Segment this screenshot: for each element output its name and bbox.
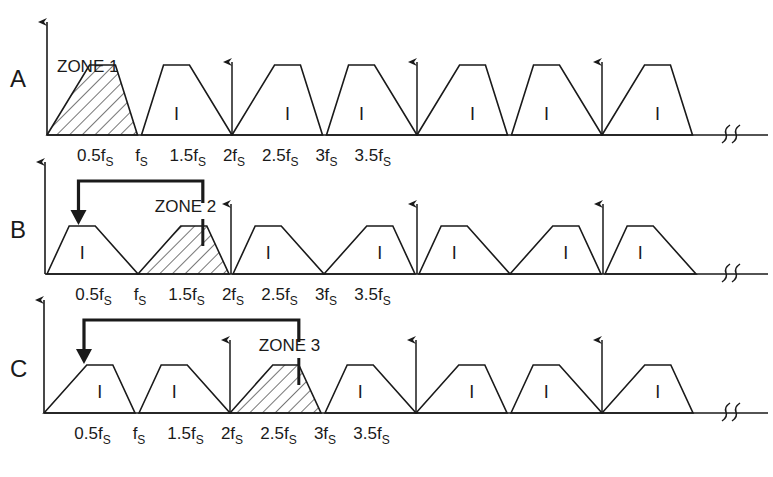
zone-label: ZONE 2 [155, 197, 216, 216]
tick-label: 0.5fS [74, 424, 110, 447]
image-band [605, 226, 696, 274]
image-band [419, 226, 510, 274]
image-band [416, 365, 507, 413]
image-band [511, 365, 602, 413]
tick-label: 3fS [315, 285, 337, 308]
image-band [417, 65, 508, 135]
band-label: I [638, 243, 643, 263]
image-band [44, 365, 135, 413]
panel-c: IIIIII0.5fSfS1.5fS2fS2.5fS3fS3.5fSCZONE … [10, 300, 768, 447]
band-label: I [285, 104, 290, 124]
band-label: I [469, 382, 474, 402]
image-band [324, 226, 415, 274]
image-band [142, 65, 233, 135]
tick-label: 2.5fS [260, 424, 296, 447]
axis-break-icon [722, 125, 740, 143]
image-band [325, 365, 416, 413]
zone-band-hatched [138, 226, 229, 274]
panel-label: C [10, 355, 27, 382]
band-label: I [266, 243, 271, 263]
band-label: I [544, 104, 549, 124]
panel-label: A [10, 65, 26, 92]
undersampling-zones-diagram: IIIIII0.5fSfS1.5fS2fS2.5fS3fS3.5fSAZONE … [0, 0, 773, 477]
image-band [510, 226, 601, 274]
tick-label: 3fS [315, 146, 337, 169]
image-band [327, 65, 418, 135]
band-label: I [655, 104, 660, 124]
axis-break-icon [722, 264, 740, 282]
tick-label: 2.5fS [262, 146, 298, 169]
band-label: I [172, 382, 177, 402]
tick-label: 3fS [314, 424, 336, 447]
image-band [233, 226, 324, 274]
band-label: I [452, 243, 457, 263]
tick-label: 2fS [221, 424, 243, 447]
image-band [602, 365, 693, 413]
tick-label: 3.5fS [355, 146, 391, 169]
band-label: I [544, 382, 549, 402]
band-label: I [655, 382, 660, 402]
zone-band-hatched [230, 365, 321, 413]
panel-a: IIIIII0.5fSfS1.5fS2fS2.5fS3fS3.5fSAZONE … [10, 22, 768, 169]
tick-label: 1.5fS [167, 424, 203, 447]
band-label: I [97, 382, 102, 402]
tick-label: 1.5fS [170, 146, 206, 169]
panel-b: IIIIII0.5fSfS1.5fS2fS2.5fS3fS3.5fSBZONE … [10, 162, 768, 308]
fold-back-arrowhead-icon [76, 349, 92, 364]
band-label: I [563, 243, 568, 263]
zone-label: ZONE 3 [259, 336, 320, 355]
image-band [602, 65, 693, 135]
fold-back-arrowhead-icon [70, 210, 86, 225]
tick-label: 2fS [223, 146, 245, 169]
tick-label: fS [135, 146, 148, 169]
band-label: I [470, 104, 475, 124]
image-band [512, 65, 603, 135]
panel-label: B [10, 216, 26, 243]
image-band [139, 365, 230, 413]
band-label: I [359, 104, 364, 124]
tick-label: 0.5fS [75, 285, 111, 308]
image-band [232, 65, 323, 135]
band-label: I [358, 382, 363, 402]
tick-label: 3.5fS [354, 285, 390, 308]
tick-label: 3.5fS [353, 424, 389, 447]
band-label: I [174, 104, 179, 124]
zone-label: ZONE 1 [57, 57, 118, 76]
diagram-canvas: IIIIII0.5fSfS1.5fS2fS2.5fS3fS3.5fSAZONE … [0, 0, 773, 477]
tick-label: fS [133, 424, 146, 447]
axis-break-icon [722, 403, 740, 421]
tick-label: 1.5fS [168, 285, 204, 308]
tick-label: 2fS [222, 285, 244, 308]
image-band [47, 226, 138, 274]
tick-label: 2.5fS [261, 285, 297, 308]
tick-label: 0.5fS [77, 146, 113, 169]
tick-label: fS [134, 285, 147, 308]
band-label: I [377, 243, 382, 263]
band-label: I [80, 243, 85, 263]
